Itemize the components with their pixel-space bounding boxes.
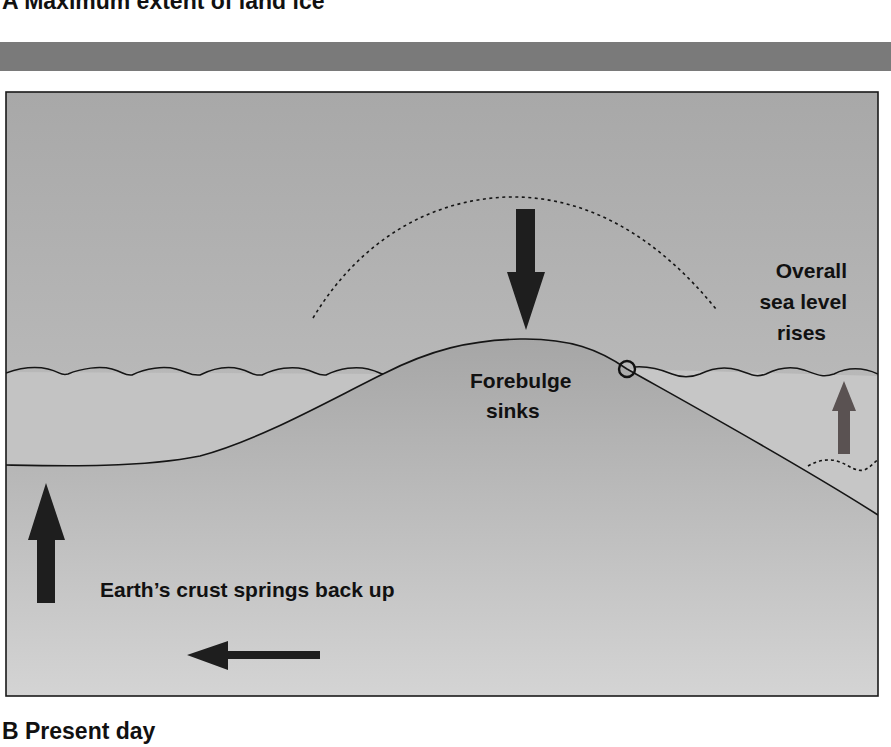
sea-level-label-line2: sea level <box>759 290 847 313</box>
sea-level-label-line1: Overall <box>776 259 847 282</box>
forebulge-label-line1: Forebulge <box>470 369 572 392</box>
diagram-canvas: Overall sea level rises Forebulge sinks … <box>0 0 891 747</box>
sea-level-label-line3: rises <box>777 321 826 344</box>
crust-label: Earth’s crust springs back up <box>100 578 394 601</box>
forebulge-label-line2: sinks <box>486 399 540 422</box>
panel-b-title: B Present day <box>2 718 155 745</box>
